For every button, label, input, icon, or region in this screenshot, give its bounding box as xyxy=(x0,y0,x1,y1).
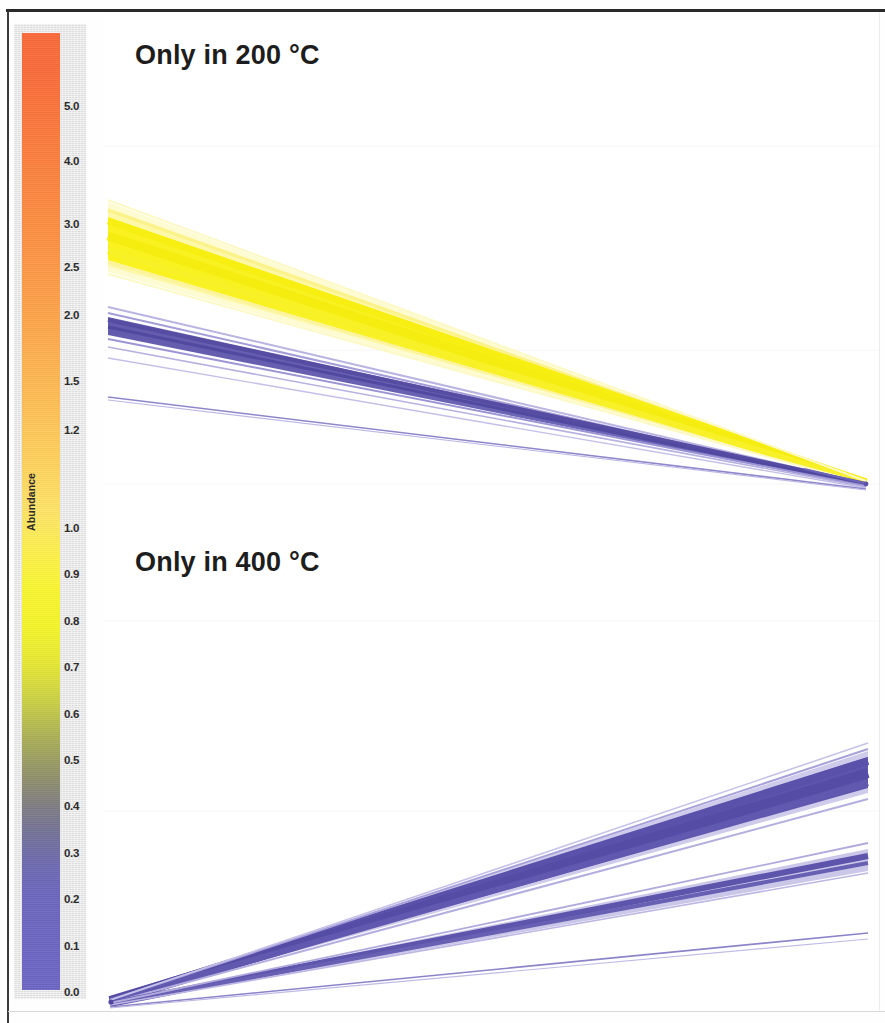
colorbar-tick-1-2: 1.2 xyxy=(64,424,79,436)
panel-top-title: Only in 200 °C xyxy=(135,40,320,71)
frame-right-border xyxy=(879,12,880,1011)
colorbar-tick-0-1: 0.1 xyxy=(64,940,79,952)
abundance-colorbar-legend: 5.04.03.02.52.01.51.21.00.90.80.70.60.50… xyxy=(14,24,102,999)
colorbar-tick-0-4: 0.4 xyxy=(64,800,79,812)
colorbar-tick-0-8: 0.8 xyxy=(64,615,79,627)
colorbar-tick-0-0: 0.0 xyxy=(64,986,79,998)
colorbar-tick-2-5: 2.5 xyxy=(64,261,79,273)
frame-bottom-border xyxy=(8,1011,885,1012)
panel-bottom-line-canvas xyxy=(104,511,879,1011)
colorbar-tick-1-5: 1.5 xyxy=(64,375,79,387)
purple-line-bundle-bottom-middle xyxy=(110,843,868,1005)
panel-only-in-200c: Only in 200 °C xyxy=(104,14,879,511)
colorbar-axis-title: Abundance xyxy=(25,447,37,557)
colorbar-tick-0-3: 0.3 xyxy=(64,847,79,859)
colorbar-tick-5-0: 5.0 xyxy=(64,100,79,112)
frame-left-border xyxy=(7,11,9,1023)
panel-only-in-400c: Only in 400 °C xyxy=(104,511,879,1011)
colorbar-tick-0-9: 0.9 xyxy=(64,568,79,580)
colorbar-tick-0-5: 0.5 xyxy=(64,754,79,766)
colorbar-tick-0-6: 0.6 xyxy=(64,708,79,720)
colorbar-tick-3-0: 3.0 xyxy=(64,218,79,230)
colorbar-tick-2-0: 2.0 xyxy=(64,309,79,321)
colorbar-tick-0-7: 0.7 xyxy=(64,661,79,673)
figure-root: 5.04.03.02.52.01.51.21.00.90.80.70.60.50… xyxy=(0,0,885,1023)
colorbar-tick-0-2: 0.2 xyxy=(64,893,79,905)
frame-top-border xyxy=(6,9,885,12)
colorbar-tick-4-0: 4.0 xyxy=(64,155,79,167)
purple-line-bundle-top xyxy=(108,307,866,488)
panel-top-line-canvas xyxy=(104,14,879,511)
colorbar-tick-1-0: 1.0 xyxy=(64,522,79,534)
fan-origin-bottom xyxy=(108,999,113,1004)
panel-bottom-title: Only in 400 °C xyxy=(135,547,320,578)
